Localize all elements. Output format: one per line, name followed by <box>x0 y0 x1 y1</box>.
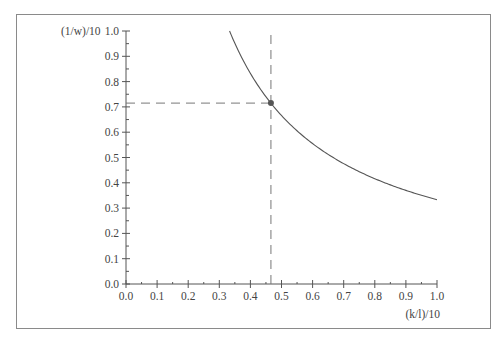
y-tick-label: 0.9 <box>105 50 120 62</box>
x-tick-label: 0.5 <box>274 290 289 302</box>
y-tick-label: 0.1 <box>105 253 120 265</box>
y-axis-title: (1/w)/10 <box>61 25 101 38</box>
x-tick-label: 0.7 <box>337 290 352 302</box>
y-tick-label: 0.4 <box>105 177 120 189</box>
y-tick-label: 0.5 <box>105 152 120 164</box>
y-tick-label: 0.3 <box>105 202 120 214</box>
x-tick-label: 0.1 <box>150 290 165 302</box>
data-series <box>230 31 437 200</box>
x-axis-title: (k/l)/10 <box>406 308 441 321</box>
x-tick-label: 0.3 <box>212 290 227 302</box>
curve-line <box>230 31 437 200</box>
chart: 0.00.10.20.30.40.50.60.70.80.91.00.00.10… <box>0 0 503 343</box>
y-tick-label: 0.8 <box>105 76 120 88</box>
highlight-point <box>268 100 274 106</box>
guide-lines <box>126 31 271 284</box>
y-tick-label: 0.6 <box>105 126 120 138</box>
y-tick-label: 0.0 <box>105 278 120 290</box>
x-tick-label: 0.9 <box>399 290 414 302</box>
x-tick-label: 1.0 <box>430 290 445 302</box>
x-tick-label: 0.2 <box>181 290 196 302</box>
y-tick-label: 1.0 <box>105 25 120 37</box>
y-tick-label: 0.2 <box>105 227 120 239</box>
x-tick-label: 0.6 <box>305 290 320 302</box>
y-tick-label: 0.7 <box>105 101 120 113</box>
x-tick-label: 0.8 <box>368 290 383 302</box>
x-tick-label: 0.0 <box>119 290 134 302</box>
axes: 0.00.10.20.30.40.50.60.70.80.91.00.00.10… <box>105 25 445 302</box>
x-tick-label: 0.4 <box>243 290 258 302</box>
